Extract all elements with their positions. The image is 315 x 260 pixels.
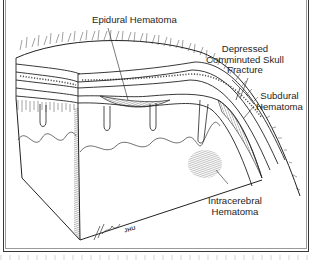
brain-block-illustration [0,0,315,260]
label-intracerebral-line1: Intracerebral [208,196,262,207]
brain-block [16,98,262,240]
label-epidural-hematoma: Epidural Hematoma [92,15,177,26]
label-subdural-line1: Subdural [256,91,303,102]
intracerebral-hematoma-shape [188,150,222,178]
label-depressed-fracture: Depressed Comminuted Skull Fracture [206,44,284,76]
bottom-edge-strip [0,255,315,260]
label-depressed-line3: Fracture [206,65,284,76]
label-intracerebral-hematoma: Intracerebral Hematoma [208,196,262,217]
label-subdural-hematoma: Subdural Hematoma [256,91,303,112]
label-depressed-line1: Depressed [206,44,284,55]
label-subdural-line2: Hematoma [256,102,303,113]
label-intracerebral-line2: Hematoma [208,207,262,218]
label-epidural-text: Epidural Hematoma [92,14,177,25]
cortical-sulci [40,100,208,143]
gray-white-boundary-left [18,132,76,142]
artist-signature-scribble [94,224,120,240]
